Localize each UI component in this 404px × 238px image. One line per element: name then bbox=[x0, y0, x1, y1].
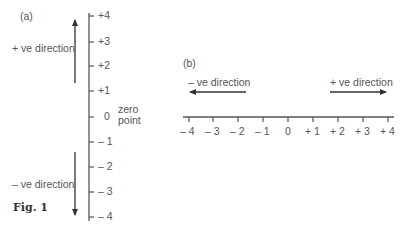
tick-label: + 3 bbox=[355, 125, 370, 137]
tick-label: – 1 bbox=[255, 125, 270, 137]
tick-label: – 1 bbox=[98, 135, 113, 147]
tick-label: – 4 bbox=[98, 210, 113, 222]
horizontal-number-line bbox=[183, 117, 394, 122]
tick-label: – 2 bbox=[98, 160, 113, 172]
tick-label: +1 bbox=[98, 84, 110, 96]
zero-point-label: zero point bbox=[118, 104, 141, 126]
tick-label: +3 bbox=[98, 35, 110, 47]
tick-label: – 3 bbox=[98, 185, 113, 197]
tick-label: – 4 bbox=[180, 125, 195, 137]
tick-label: +4 bbox=[98, 9, 110, 21]
positive-direction-label-b: + ve direction bbox=[330, 76, 393, 88]
vertical-number-line bbox=[89, 13, 94, 221]
tick-label: + 1 bbox=[305, 125, 320, 137]
panel-a-label: (a) bbox=[20, 10, 33, 22]
figure-caption: Fig. 1 bbox=[13, 201, 48, 214]
tick-label: + 4 bbox=[380, 125, 395, 137]
negative-direction-label-b: – ve direction bbox=[188, 76, 250, 88]
number-line-diagram bbox=[0, 0, 404, 238]
negative-direction-label: – ve direction bbox=[12, 178, 74, 190]
point-label: point bbox=[118, 115, 141, 126]
panel-b-label: (b) bbox=[183, 57, 196, 69]
tick-label: 0 bbox=[285, 125, 291, 137]
positive-direction-label: + ve direction bbox=[12, 42, 75, 54]
tick-label: + 2 bbox=[330, 125, 345, 137]
tick-label: 0 bbox=[104, 110, 110, 122]
tick-label: – 2 bbox=[230, 125, 245, 137]
tick-label: +2 bbox=[98, 59, 110, 71]
tick-label: – 3 bbox=[205, 125, 220, 137]
